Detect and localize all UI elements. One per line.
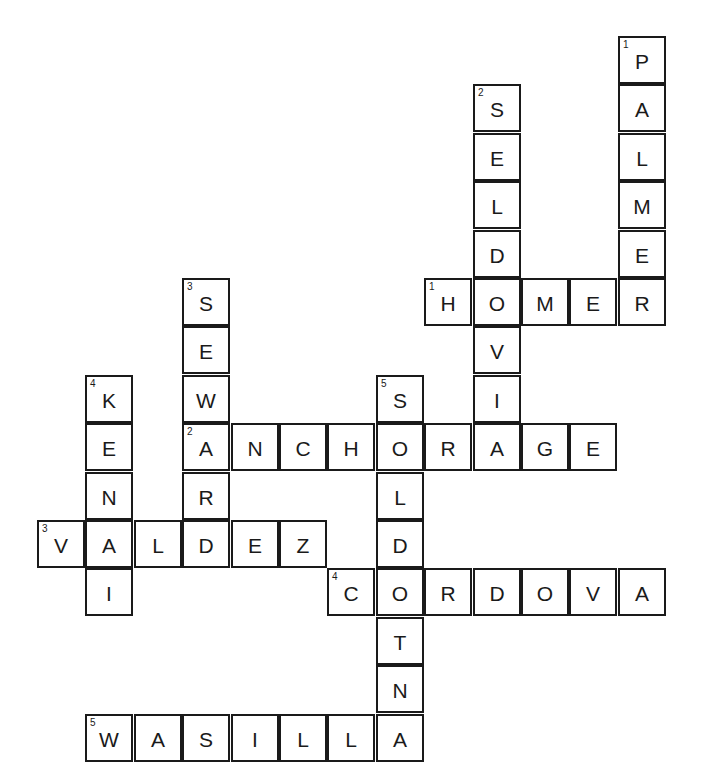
grid-cell[interactable]: L (279, 714, 327, 762)
grid-cell[interactable]: D (376, 520, 424, 568)
cell-letter: R (620, 292, 664, 316)
grid-cell[interactable]: L (134, 520, 182, 568)
grid-cell[interactable]: E (231, 520, 279, 568)
cell-letter: V (475, 340, 519, 364)
cell-letter: E (87, 437, 131, 461)
grid-cell[interactable]: M (521, 278, 569, 326)
cell-letter: H (426, 292, 470, 316)
grid-cell[interactable]: E (182, 326, 230, 374)
clue-number: 4 (332, 571, 338, 582)
grid-cell[interactable]: W (182, 375, 230, 423)
cell-letter: A (87, 534, 131, 558)
grid-cell[interactable]: E (473, 133, 521, 181)
grid-cell[interactable]: I (231, 714, 279, 762)
grid-cell[interactable]: R (424, 423, 472, 471)
grid-cell[interactable]: S (182, 714, 230, 762)
cell-letter: A (136, 728, 180, 752)
cell-letter: V (571, 582, 615, 606)
cell-letter: N (87, 486, 131, 510)
cell-letter: A (620, 98, 664, 122)
cell-letter: M (620, 195, 664, 219)
cell-letter: G (523, 437, 567, 461)
cell-letter: R (426, 437, 470, 461)
grid-cell[interactable]: V (569, 568, 617, 616)
grid-cell[interactable]: Z (279, 520, 327, 568)
grid-cell[interactable]: 1P (618, 36, 666, 84)
grid-cell[interactable]: H (327, 423, 375, 471)
cell-letter: W (87, 728, 131, 752)
grid-cell[interactable]: 1H (424, 278, 472, 326)
cell-letter: S (184, 292, 228, 316)
grid-cell[interactable]: G (521, 423, 569, 471)
grid-cell[interactable]: O (376, 423, 424, 471)
cell-letter: N (233, 437, 277, 461)
grid-cell[interactable]: M (618, 181, 666, 229)
cell-letter: L (136, 534, 180, 558)
cell-letter: M (523, 292, 567, 316)
grid-cell[interactable]: N (231, 423, 279, 471)
grid-cell[interactable]: 3V (37, 520, 85, 568)
grid-cell[interactable]: L (327, 714, 375, 762)
grid-cell[interactable]: V (473, 326, 521, 374)
clue-number: 1 (623, 39, 629, 50)
grid-cell[interactable]: L (618, 133, 666, 181)
grid-cell[interactable]: A (376, 714, 424, 762)
grid-cell[interactable]: 3S (182, 278, 230, 326)
cell-letter: O (378, 582, 422, 606)
grid-cell[interactable]: A (85, 520, 133, 568)
clue-number: 3 (187, 281, 193, 292)
clue-number: 2 (478, 87, 484, 98)
grid-cell[interactable]: D (473, 230, 521, 278)
grid-cell[interactable]: L (473, 181, 521, 229)
grid-cell[interactable]: A (134, 714, 182, 762)
grid-cell[interactable]: N (376, 665, 424, 713)
grid-cell[interactable]: R (618, 278, 666, 326)
grid-cell[interactable]: 5W (85, 714, 133, 762)
cell-letter: D (475, 244, 519, 268)
cell-letter: A (378, 728, 422, 752)
cell-letter: N (378, 679, 422, 703)
cell-letter: L (475, 195, 519, 219)
cell-letter: E (620, 244, 664, 268)
cell-letter: H (329, 437, 373, 461)
grid-cell[interactable]: I (473, 375, 521, 423)
grid-cell[interactable]: I (85, 568, 133, 616)
grid-cell[interactable]: N (85, 472, 133, 520)
clue-number: 4 (90, 378, 96, 389)
grid-cell[interactable]: A (618, 84, 666, 132)
cell-letter: D (378, 534, 422, 558)
grid-cell[interactable]: 5S (376, 375, 424, 423)
grid-cell[interactable]: D (473, 568, 521, 616)
cell-letter: E (475, 147, 519, 171)
cell-letter: W (184, 389, 228, 413)
grid-cell[interactable]: O (473, 278, 521, 326)
grid-cell[interactable]: E (569, 278, 617, 326)
grid-cell[interactable]: O (376, 568, 424, 616)
cell-letter: O (475, 292, 519, 316)
grid-cell[interactable]: E (569, 423, 617, 471)
clue-number: 1 (429, 281, 435, 292)
cell-letter: K (87, 389, 131, 413)
cell-letter: V (39, 534, 83, 558)
grid-cell[interactable]: L (376, 472, 424, 520)
grid-cell[interactable]: D (182, 520, 230, 568)
cell-letter: D (184, 534, 228, 558)
grid-cell[interactable]: R (182, 472, 230, 520)
grid-cell[interactable]: E (618, 230, 666, 278)
cell-letter: L (329, 728, 373, 752)
grid-cell[interactable]: E (85, 423, 133, 471)
cell-letter: I (475, 389, 519, 413)
grid-cell[interactable]: T (376, 617, 424, 665)
grid-cell[interactable]: A (473, 423, 521, 471)
grid-cell[interactable]: 4K (85, 375, 133, 423)
grid-cell[interactable]: C (279, 423, 327, 471)
grid-cell[interactable]: 2A (182, 423, 230, 471)
grid-cell[interactable]: R (424, 568, 472, 616)
cell-letter: R (184, 486, 228, 510)
grid-cell[interactable]: 4C (327, 568, 375, 616)
grid-cell[interactable]: A (618, 568, 666, 616)
grid-cell[interactable]: 2S (473, 84, 521, 132)
cell-letter: A (620, 582, 664, 606)
cell-letter: O (523, 582, 567, 606)
grid-cell[interactable]: O (521, 568, 569, 616)
